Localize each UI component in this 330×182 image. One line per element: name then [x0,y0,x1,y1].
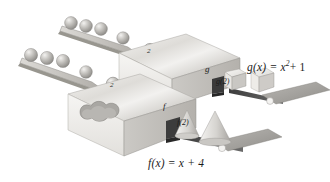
g-equation-main: g(x) = x [247,61,286,73]
g-output-label: g(2) [216,77,229,86]
f-input-sphere-label: 2 [110,81,114,89]
function-machine-illustration [0,0,330,182]
f-equation: f(x) = x + 4 [148,157,204,169]
f-output-label: f(2) [177,118,189,127]
g-input-sphere-label: 2 [147,47,151,55]
g-equation: g(x) = x2+ 1 [247,59,305,73]
figure-canvas: 2 2 g f g(2) f(2) g(x) = x2+ 1 f(x) = x … [0,0,330,182]
g-equation-tail: + 1 [290,61,306,73]
f-machine-face-label: f [163,101,166,111]
g-machine-face-label: g [205,64,210,74]
